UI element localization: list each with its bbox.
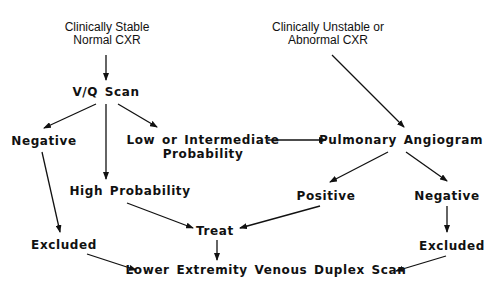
arrow-positive-to-treat	[240, 206, 320, 228]
arrow-angiogram-to-negative	[406, 152, 447, 181]
node-excluded-right: Excluded	[419, 239, 485, 253]
node-lower-extremity-duplex-scan: Lower Extremity Venous Duplex Scan	[126, 263, 407, 277]
flowchart-canvas: Clinically Stable Normal CXR Clinically …	[0, 0, 496, 296]
arrow-negative-to-excluded-left	[42, 152, 60, 232]
node-vq-negative: Negative	[11, 134, 76, 148]
node-clinically-unstable: Clinically Unstable or Abnormal CXR	[272, 21, 384, 47]
node-clinically-stable: Clinically Stable Normal CXR	[65, 21, 150, 47]
node-angiogram-negative: Negative	[414, 189, 479, 203]
node-low-intermediate-probability: Low or Intermediate Probability	[126, 133, 279, 161]
node-angiogram-positive: Positive	[297, 189, 356, 203]
arrow-angiogram-to-positive	[330, 152, 388, 182]
arrow-high-to-treat	[127, 203, 193, 228]
node-vq-scan: V/Q Scan	[72, 85, 139, 99]
node-high-probability: High Probability	[69, 184, 190, 198]
node-pulmonary-angiogram: Pulmonary Angiogram	[319, 133, 483, 147]
node-treat: Treat	[196, 224, 234, 238]
arrow-unstable-to-angiogram	[332, 55, 404, 127]
arrow-vq-to-negative	[44, 104, 96, 128]
arrow-vq-to-low-intermediate	[118, 104, 157, 127]
node-excluded-left: Excluded	[31, 238, 97, 252]
